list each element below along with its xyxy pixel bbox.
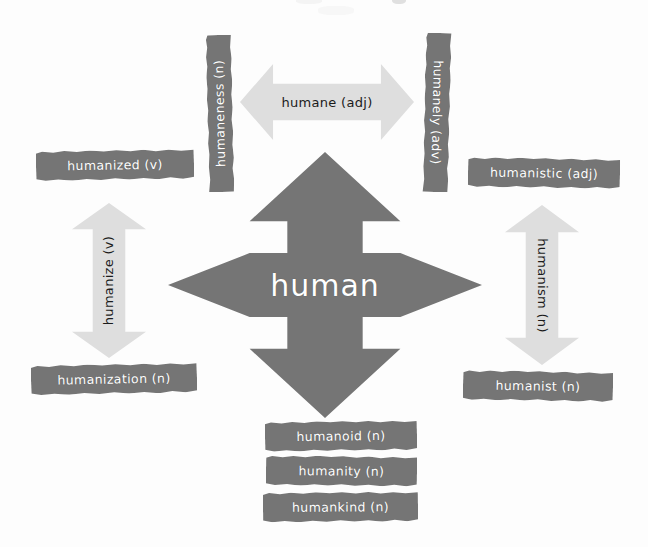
chip-humanist: humanist (n)	[463, 370, 613, 402]
chip-humanization: humanization (n)	[31, 362, 198, 395]
chip-humanistic-label: humanistic (adj)	[490, 164, 598, 181]
scan-artifact-left	[296, 0, 322, 4]
chip-humanoid: humanoid (n)	[265, 420, 417, 452]
connector-humane-arrow: humane (adj)	[240, 64, 414, 140]
connector-humanism-label: humanism (n)	[535, 238, 550, 333]
connector-humanize-arrow: humanize (v)	[72, 203, 146, 358]
chip-humanely-label: humanely (adv)	[428, 60, 446, 165]
connector-humane-label-wrap: humane (adj)	[240, 64, 414, 140]
chip-humanely: humanely (adv)	[422, 33, 452, 193]
connector-humanize-label-wrap: humanize (v)	[72, 203, 146, 358]
chip-humanity-label: humanity (n)	[299, 463, 385, 479]
chip-humanized: humanized (v)	[36, 149, 194, 181]
connector-humanism-arrow: humanism (n)	[505, 205, 579, 365]
chip-humanization-label: humanization (n)	[57, 370, 171, 387]
chip-humanistic: humanistic (adj)	[468, 157, 620, 189]
chip-humaneness: humaneness (n)	[205, 35, 234, 193]
chip-humaneness-label: humaneness (n)	[211, 60, 228, 167]
scan-artifact-right	[392, 0, 406, 4]
chip-humanized-label: humanized (v)	[67, 156, 163, 172]
chip-humanity: humanity (n)	[266, 455, 417, 486]
connector-humanism-label-wrap: humanism (n)	[505, 205, 579, 365]
connector-humane-label: humane (adj)	[281, 95, 372, 110]
chip-humankind-label: humankind (n)	[292, 499, 389, 515]
chip-humanist-label: humanist (n)	[495, 377, 580, 393]
word-family-diagram: human humane (adj) humaneness (n) humane…	[0, 0, 648, 547]
scan-artifact-center	[318, 6, 354, 15]
chip-humanoid-label: humanoid (n)	[296, 427, 385, 443]
chip-humankind: humankind (n)	[263, 491, 418, 522]
connector-humanize-label: humanize (v)	[102, 236, 117, 325]
